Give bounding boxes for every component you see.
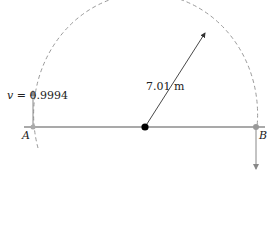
point-a-label: A: [22, 129, 30, 142]
point-b-label: B: [259, 129, 267, 142]
velocity-value: 0.9994: [29, 89, 68, 102]
equals-sign: =: [13, 89, 29, 102]
point-a-marker: [31, 125, 36, 130]
radius-label: 7.01 m: [146, 80, 184, 93]
velocity-label: v = 0.9994: [7, 89, 68, 102]
center-dot: [141, 123, 148, 130]
